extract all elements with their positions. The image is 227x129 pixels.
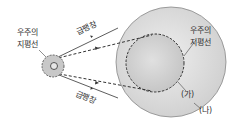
outer-sphere-label: (나) xyxy=(199,106,212,116)
small-inner-sphere xyxy=(51,63,58,70)
horizon-left-label-1: 우주의 xyxy=(17,28,38,38)
horizon-left-label-2: 지평선 xyxy=(17,40,38,50)
inner-sphere xyxy=(126,34,184,92)
inner-sphere-label: (가) xyxy=(181,90,194,100)
inflation-diagram xyxy=(0,0,227,129)
horizon-right-label-2: 지평선 xyxy=(190,38,211,48)
horizon-right-label-1: 우주의 xyxy=(190,26,211,36)
